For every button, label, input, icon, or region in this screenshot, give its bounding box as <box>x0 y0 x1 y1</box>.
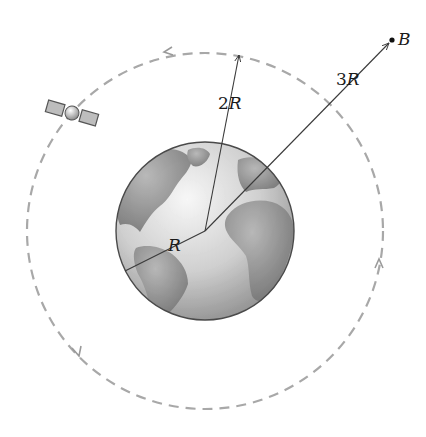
point-b-dot <box>389 37 394 42</box>
orbit-arrow-top-icon <box>164 47 173 55</box>
label-B: B <box>398 31 411 48</box>
satellite-icon <box>45 99 99 127</box>
label-3R-coef: 3 <box>336 69 347 89</box>
orbit-diagram <box>0 0 426 437</box>
distance-3R-line <box>205 43 389 231</box>
label-2R: 2R <box>218 95 242 112</box>
label-2R-var: R <box>229 93 242 113</box>
label-R: R <box>168 237 181 254</box>
label-R-var: R <box>168 235 181 255</box>
label-2R-coef: 2 <box>218 93 229 113</box>
label-B-var: B <box>398 29 411 49</box>
label-3R-var: R <box>347 69 360 89</box>
label-3R: 3R <box>336 71 360 88</box>
